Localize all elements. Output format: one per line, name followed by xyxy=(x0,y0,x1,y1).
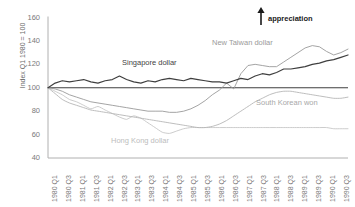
up-arrow-icon xyxy=(257,7,264,25)
exchange-rate-index-chart: Index Q1 1980 = 100 160140120100806040 1… xyxy=(0,0,355,207)
x-tick-1987-Q1: 1987 Q1 xyxy=(246,175,253,202)
series-lines xyxy=(48,46,348,134)
x-tick-1980-Q1: 1980 Q1 xyxy=(51,175,58,202)
x-tick-1982-Q1: 1982 Q1 xyxy=(107,175,114,202)
x-tick-1990-Q1: 1990 Q1 xyxy=(329,175,336,202)
x-tick-1983-Q1: 1983 Q1 xyxy=(134,175,141,202)
x-tick-1983-Q3: 1983 Q3 xyxy=(148,175,155,202)
series-label-south-korean-won: South Korean won xyxy=(256,98,318,107)
x-tick-1982-Q3: 1982 Q3 xyxy=(121,175,128,202)
x-tick-1989-Q1: 1989 Q1 xyxy=(301,175,308,202)
appreciation-annotation-label: appreciation xyxy=(268,14,313,23)
x-tick-1985-Q3: 1985 Q3 xyxy=(204,175,211,202)
x-tick-1984-Q3: 1984 Q3 xyxy=(176,175,183,202)
series-line-south-korean-won xyxy=(48,88,348,128)
x-tick-1986-Q1: 1986 Q1 xyxy=(218,175,225,202)
series-label-singapore-dollar: Singapore dollar xyxy=(122,58,177,67)
x-tick-1980-Q3: 1980 Q3 xyxy=(65,175,72,202)
x-tick-1988-Q3: 1988 Q3 xyxy=(287,175,294,202)
x-tick-1984-Q1: 1984 Q1 xyxy=(162,175,169,202)
x-tick-1990-Q3: 1990 Q3 xyxy=(343,175,350,202)
series-label-new-taiwan-dollar: New Taiwan dollar xyxy=(212,38,273,47)
x-tick-1989-Q3: 1989 Q3 xyxy=(315,175,322,202)
x-tick-1981-Q3: 1981 Q3 xyxy=(93,175,100,202)
x-tick-1987-Q3: 1987 Q3 xyxy=(260,175,267,202)
x-tick-1988-Q1: 1988 Q1 xyxy=(273,175,280,202)
series-line-singapore-dollar xyxy=(48,55,348,88)
x-tick-1985-Q1: 1985 Q1 xyxy=(190,175,197,202)
x-tick-1986-Q3: 1986 Q3 xyxy=(232,175,239,202)
x-tick-1981-Q1: 1981 Q1 xyxy=(79,175,86,202)
series-label-hong-kong-dollar: Hong Kong dollar xyxy=(111,136,169,145)
